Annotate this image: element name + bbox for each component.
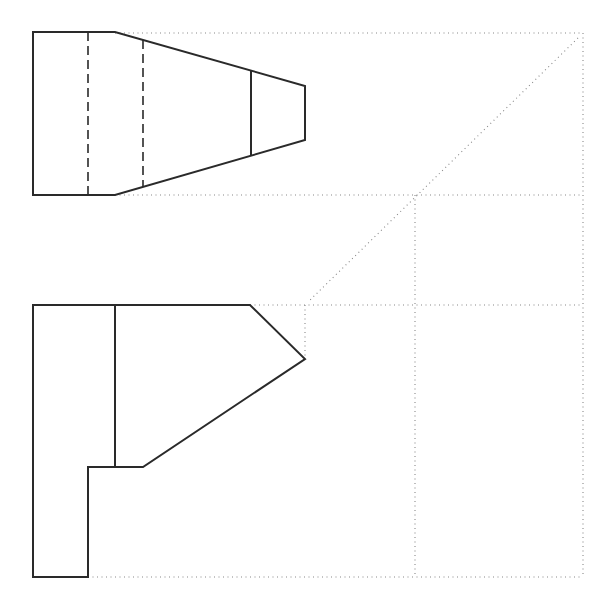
construction-line: [308, 38, 578, 302]
front-view-outline: [33, 305, 305, 577]
top-view-outline: [33, 32, 305, 195]
top-view: [33, 32, 305, 195]
front-view: [33, 305, 305, 577]
projection-drawing: [0, 0, 614, 609]
top-view-hidden-lines: [88, 32, 143, 195]
